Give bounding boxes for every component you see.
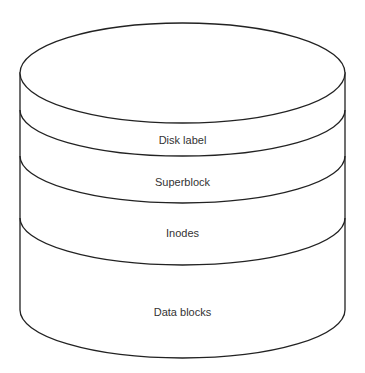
- layer-label-disk-label: Disk label: [0, 133, 365, 147]
- layer-label-superblock: Superblock: [0, 175, 365, 189]
- cylinder-top-ellipse: [20, 23, 345, 123]
- layer-label-data-blocks: Data blocks: [0, 305, 365, 319]
- layer-label-inodes: Inodes: [0, 226, 365, 240]
